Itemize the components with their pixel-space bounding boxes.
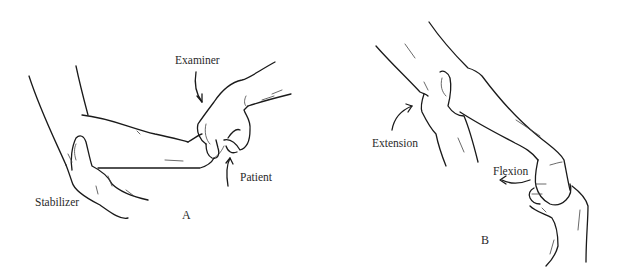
panel-a: Examiner Patient Stabilizer A [0,0,310,278]
wrist-flexion-extension-illustration [310,0,619,278]
forearm-stabilization-illustration [0,0,310,278]
panel-a-letter: A [182,209,191,221]
patient-label: Patient [240,172,272,184]
stabilizer-label: Stabilizer [35,197,79,209]
panel-b: Extension Flexion B [310,0,619,278]
flexion-label: Flexion [493,166,528,178]
examiner-label: Examiner [175,55,220,67]
panel-b-letter: B [481,234,489,246]
extension-label: Extension [372,138,418,150]
